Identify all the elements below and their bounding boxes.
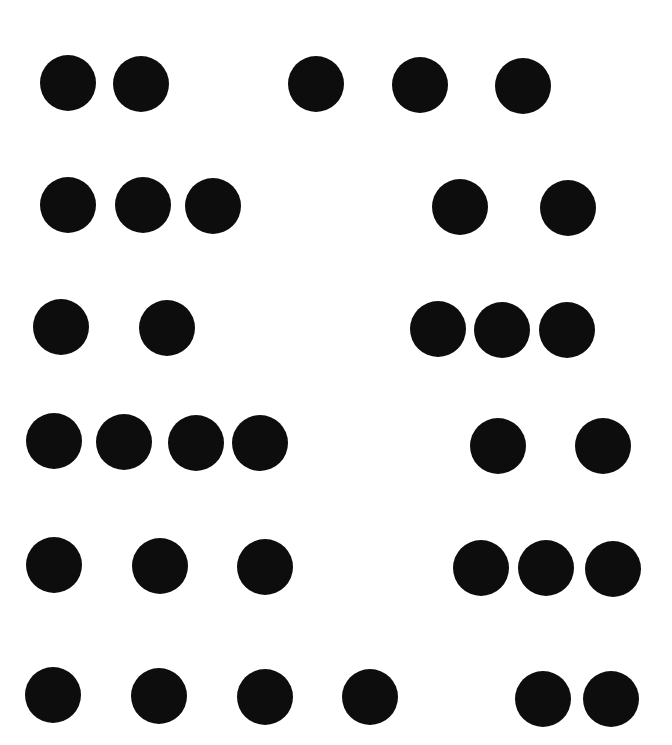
dot bbox=[575, 418, 631, 474]
dot bbox=[131, 668, 187, 724]
dot bbox=[132, 538, 188, 594]
dot bbox=[474, 302, 530, 358]
dot-pattern-canvas bbox=[0, 0, 672, 745]
dot bbox=[113, 56, 169, 112]
dot bbox=[515, 671, 571, 727]
dot bbox=[237, 539, 293, 595]
dot bbox=[115, 177, 171, 233]
dot bbox=[453, 540, 509, 596]
dot bbox=[583, 671, 639, 727]
dot bbox=[288, 56, 344, 112]
dot bbox=[585, 541, 641, 597]
dot bbox=[470, 418, 526, 474]
dot bbox=[539, 302, 595, 358]
dot bbox=[410, 301, 466, 357]
dot bbox=[342, 669, 398, 725]
dot bbox=[26, 413, 82, 469]
dot bbox=[40, 55, 96, 111]
dot bbox=[185, 178, 241, 234]
dot bbox=[540, 180, 596, 236]
dot bbox=[495, 58, 551, 114]
dot bbox=[33, 299, 89, 355]
dot bbox=[40, 177, 96, 233]
dot bbox=[26, 537, 82, 593]
dot bbox=[518, 540, 574, 596]
dot bbox=[168, 415, 224, 471]
dot bbox=[25, 667, 81, 723]
dot bbox=[232, 415, 288, 471]
dot bbox=[139, 300, 195, 356]
dot bbox=[96, 414, 152, 470]
dot bbox=[392, 57, 448, 113]
dot bbox=[237, 669, 293, 725]
dot bbox=[432, 179, 488, 235]
